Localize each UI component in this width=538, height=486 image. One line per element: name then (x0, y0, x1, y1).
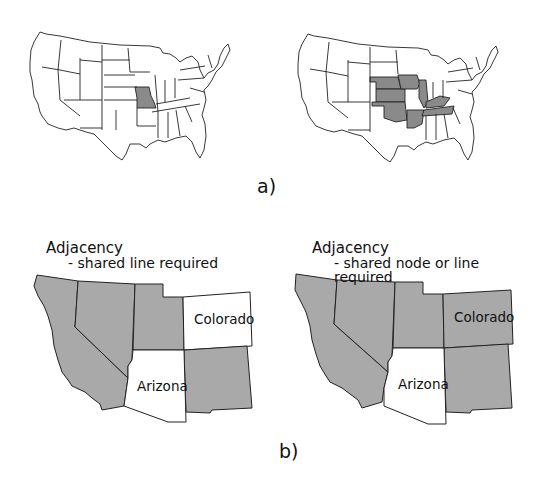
label-colorado-right: Colorado (454, 309, 514, 325)
west-map-left (34, 275, 252, 422)
state-utah (133, 284, 184, 350)
label-arizona-right: Arizona (398, 376, 449, 392)
figure-a-caption: a) (257, 175, 276, 197)
figure-b-caption: b) (279, 440, 298, 462)
right-panel-heading: Adjacency - shared node or line required (312, 241, 538, 284)
left-panel-title: Adjacency (46, 241, 218, 256)
right-panel-title: Adjacency (312, 241, 538, 256)
us-map-left (30, 32, 230, 160)
state-new-mexico (184, 346, 252, 413)
right-panel-subtitle: - shared node or line required (334, 256, 538, 284)
us-map-right (298, 34, 498, 162)
label-arizona-left: Arizona (137, 378, 188, 394)
state-kansas (376, 89, 405, 102)
state-utah (393, 282, 444, 348)
state-new-mexico (444, 344, 512, 413)
label-colorado-left: Colorado (194, 311, 254, 327)
west-map-right (295, 274, 513, 424)
left-panel-subtitle: - shared line required (68, 256, 218, 270)
left-panel-heading: Adjacency - shared line required (46, 241, 218, 270)
state-iowa (398, 75, 420, 89)
